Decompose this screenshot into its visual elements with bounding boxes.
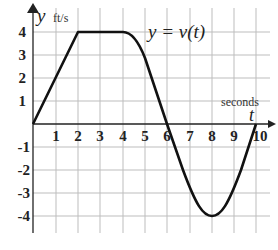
svg-text:5: 5 [141, 128, 149, 144]
svg-text:-1: -1 [18, 139, 31, 155]
svg-text:1: 1 [19, 93, 27, 109]
svg-text:-3: -3 [18, 185, 31, 201]
x-axis-arrow-icon [268, 120, 276, 128]
y-axis-label: y [35, 5, 46, 26]
svg-text:1: 1 [52, 128, 60, 144]
svg-text:7: 7 [186, 128, 194, 144]
svg-text:6: 6 [163, 128, 171, 144]
x-tick-labels: 1 2 3 4 5 6 7 8 9 10 [52, 128, 267, 144]
svg-text:4: 4 [19, 24, 27, 40]
svg-text:3: 3 [96, 128, 104, 144]
svg-text:4: 4 [119, 128, 127, 144]
svg-text:9: 9 [230, 128, 238, 144]
svg-text:8: 8 [208, 128, 216, 144]
svg-text:2: 2 [74, 128, 82, 144]
axes [33, 10, 272, 233]
curve-label: y = v(t) [146, 21, 205, 43]
y-axis-unit: ft/s [53, 11, 69, 25]
svg-text:3: 3 [19, 47, 27, 63]
chart: 4 3 2 1 -1 -2 -3 -4 1 2 3 4 5 6 7 8 9 10… [0, 0, 278, 250]
svg-text:-4: -4 [18, 208, 31, 224]
svg-text:2: 2 [19, 70, 27, 86]
svg-text:10: 10 [253, 128, 268, 144]
svg-text:-2: -2 [18, 162, 31, 178]
y-tick-labels: 4 3 2 1 -1 -2 -3 -4 [18, 24, 31, 224]
